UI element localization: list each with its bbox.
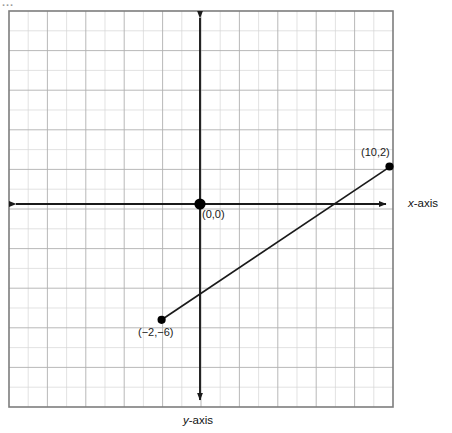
y-axis-label-suffix: -axis xyxy=(189,414,213,426)
point-label-minus2-minus6: (−2,−6) xyxy=(138,326,173,338)
point-minus2-minus6 xyxy=(158,316,166,324)
figure-canvas: ... xyxy=(0,0,452,433)
x-axis-label-suffix: -axis xyxy=(414,197,438,209)
point-label-10-2: (10,2) xyxy=(361,146,390,158)
point-label-origin: (0,0) xyxy=(202,208,225,220)
y-axis-label: y-axis xyxy=(183,414,213,426)
point-10-2 xyxy=(385,162,393,170)
coordinate-plane-graphic xyxy=(0,0,452,433)
x-axis-label: x-axis xyxy=(408,197,438,209)
